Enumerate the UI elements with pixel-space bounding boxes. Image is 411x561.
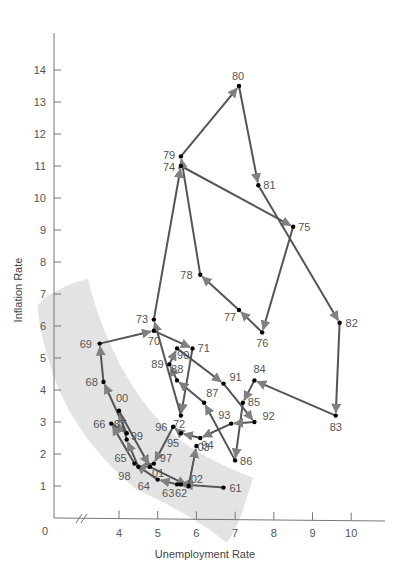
data-point — [252, 378, 256, 382]
x-axis-title: Unemployment Rate — [155, 548, 255, 560]
point-label: 75 — [298, 221, 310, 233]
data-point — [171, 425, 175, 429]
y-axis-title: Inflation Rate — [12, 258, 24, 323]
y-tick-label: 2 — [40, 448, 46, 460]
arrow-94-95 — [184, 434, 200, 438]
point-label: 81 — [263, 179, 275, 191]
y-tick-label: 4 — [40, 384, 46, 396]
y-tick-label: 8 — [40, 256, 46, 268]
point-label: 65 — [114, 452, 126, 464]
y-tick-label: 11 — [35, 160, 46, 172]
point-label: 68 — [86, 376, 98, 388]
point-label: 97 — [160, 452, 172, 464]
y-tick-label: 14 — [34, 64, 46, 76]
point-label: 87 — [206, 387, 218, 399]
y-tick-label: 3 — [40, 416, 46, 428]
data-point — [190, 346, 194, 350]
arrow-82-83 — [336, 323, 340, 413]
x-tick-label: 7 — [232, 527, 238, 539]
data-point — [117, 409, 121, 413]
point-label: 91 — [229, 371, 241, 383]
data-point — [334, 413, 338, 417]
point-label: 69 — [80, 338, 92, 350]
point-label: 84 — [253, 363, 265, 375]
point-label: 83 — [330, 421, 342, 433]
data-point — [179, 164, 183, 168]
point-label: 61 — [229, 482, 241, 494]
data-point — [136, 465, 140, 469]
data-point — [125, 437, 129, 441]
arrow-80-81 — [239, 86, 258, 182]
y-tick-label: 13 — [34, 96, 46, 108]
point-label: 90 — [177, 349, 189, 361]
data-point — [241, 401, 245, 405]
data-point — [175, 378, 179, 382]
data-point — [229, 421, 233, 425]
x-tick-label: 8 — [271, 527, 277, 539]
data-point — [125, 431, 129, 435]
data-point — [237, 84, 241, 88]
data-point — [179, 482, 183, 486]
y-tick-label: 7 — [40, 288, 46, 300]
x-tick-label: 9 — [309, 527, 315, 539]
point-label: 93 — [218, 409, 230, 421]
data-point — [337, 321, 341, 325]
point-label: 71 — [198, 342, 210, 354]
y-tick-label: 12 — [34, 128, 46, 140]
point-label: 73 — [136, 313, 148, 325]
y-tick-label: 9 — [40, 224, 46, 236]
arrow-78-79 — [181, 159, 200, 274]
point-label: 66 — [93, 418, 105, 430]
phillips-curve-chart: 1234567891011121314 Inflation Rate 45678… — [0, 0, 411, 561]
point-label: 67 — [114, 418, 126, 430]
arrow-76-77 — [241, 312, 262, 332]
arrow-79-80 — [181, 88, 237, 156]
data-point — [291, 225, 295, 229]
x-tick-label: 4 — [116, 527, 122, 539]
data-point — [101, 380, 105, 384]
arrow-89-90 — [169, 351, 175, 364]
x-tick-label: 5 — [155, 527, 161, 539]
data-point — [179, 431, 183, 435]
point-label: 02 — [191, 473, 203, 485]
origin-label: 0 — [42, 525, 48, 537]
x-tick-label: 10 — [345, 527, 357, 539]
arrow-74-75 — [181, 166, 291, 225]
point-label: 03 — [197, 441, 209, 453]
data-point — [132, 461, 136, 465]
data-point — [202, 401, 206, 405]
point-label: 86 — [240, 455, 252, 467]
arrow-75-76 — [263, 227, 293, 330]
point-label: 96 — [155, 421, 167, 433]
point-label: 89 — [151, 358, 163, 370]
point-label: 80 — [232, 70, 244, 82]
arrow-92-93 — [234, 422, 254, 423]
y-tick-label: 1 — [40, 480, 46, 492]
point-label: 01 — [152, 467, 164, 479]
point-label: 85 — [248, 396, 260, 408]
arrow-73-74 — [154, 169, 181, 320]
data-point — [179, 154, 183, 158]
x-tick-label: 6 — [193, 527, 199, 539]
point-label: 98 — [118, 470, 130, 482]
arrow-85-86 — [235, 403, 242, 458]
point-label: 88 — [171, 363, 183, 375]
point-label: 78 — [180, 269, 192, 281]
data-point — [252, 420, 256, 424]
point-label: 74 — [163, 161, 175, 173]
data-point — [152, 317, 156, 321]
data-point — [221, 485, 225, 489]
point-label: 99 — [131, 430, 143, 442]
point-label: 63 — [162, 487, 174, 499]
data-point — [152, 461, 156, 465]
data-point — [198, 273, 202, 277]
point-label: 64 — [138, 480, 150, 492]
data-point — [152, 329, 156, 333]
arrow-81-82 — [258, 185, 338, 320]
point-label: 77 — [224, 311, 236, 323]
point-label: 76 — [256, 337, 268, 349]
data-point — [175, 482, 179, 486]
data-point — [167, 362, 171, 366]
data-point — [256, 183, 260, 187]
point-label: 62 — [175, 487, 187, 499]
